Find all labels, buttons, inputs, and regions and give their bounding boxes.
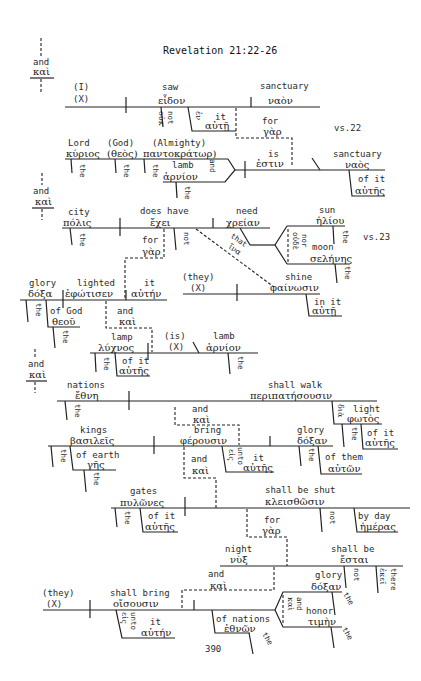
svg-text:πόλις: πόλις [63, 217, 92, 228]
svg-text:moon: moon [312, 242, 334, 252]
clause-glory-lighted: glory δόξα lighted ἐφώτισεν it αὐτήν the… [20, 278, 167, 352]
sentence-diagram: Revelation 21:22-26 and καὶ (I) (X) saw … [0, 0, 421, 681]
svg-text:ἀρνίον: ἀρνίον [163, 171, 198, 182]
svg-text:εἶδον: εἶδον [158, 94, 185, 106]
clause-lamp-is-lamb: lamp λύχνος (is) (X) lamb ἀρνίον the of … [90, 331, 258, 376]
svg-text:of it: of it [148, 511, 175, 521]
svg-text:shall walk: shall walk [268, 380, 323, 390]
page-title: Revelation 21:22-26 [163, 45, 277, 56]
svg-text:the: the [59, 449, 68, 463]
svg-text:the: the [341, 591, 356, 608]
svg-text:for: for [262, 116, 279, 126]
svg-text:οὐκ: οὐκ [157, 111, 166, 126]
svg-text:(they): (they) [182, 272, 215, 282]
svg-text:glory: glory [315, 570, 343, 580]
svg-text:it: it [150, 617, 161, 627]
svg-text:shall be shut: shall be shut [265, 485, 335, 495]
svg-text:ἐστιν: ἐστιν [256, 158, 284, 169]
svg-text:θεοῦ: θεοῦ [52, 316, 75, 327]
svg-text:shall be: shall be [331, 544, 374, 554]
svg-text:αὐτῇ: αὐτῇ [312, 305, 336, 317]
svg-text:(Almighty): (Almighty) [152, 138, 206, 148]
svg-text:καὶ: καὶ [193, 414, 210, 425]
svg-text:καὶ: καὶ [119, 316, 136, 327]
svg-text:the: the [236, 356, 245, 370]
conjunction-middle: and καὶ [32, 173, 54, 220]
svg-text:and: and [28, 359, 44, 369]
svg-text:the: the [78, 233, 87, 247]
svg-text:not: not [328, 511, 337, 525]
svg-text:nor: nor [300, 234, 309, 248]
verse-label-23: vs.23 [363, 232, 390, 242]
svg-text:διὰ: διὰ [336, 404, 345, 418]
svg-text:the: the [260, 631, 275, 648]
svg-text:δόξαν: δόξαν [297, 435, 327, 446]
svg-text:ἔχει: ἔχει [150, 217, 171, 228]
svg-text:not: not [182, 232, 191, 246]
svg-text:and: and [295, 597, 304, 611]
svg-text:by day: by day [358, 511, 391, 521]
svg-text:bring: bring [194, 425, 221, 435]
svg-text:gates: gates [130, 486, 157, 496]
svg-text:of it: of it [358, 174, 385, 184]
svg-text:for: for [264, 515, 281, 525]
svg-text:καὶ: καὶ [29, 369, 46, 380]
svg-text:not: not [352, 568, 361, 582]
svg-text:παντοκράτωρ): παντοκράτωρ) [143, 148, 216, 159]
svg-text:of them: of them [325, 452, 363, 462]
clause-they-shall-bring: (they) (X) shall bring οἴσουσιν εἰς unto… [42, 570, 356, 654]
svg-text:αὐτῆς: αὐτῆς [365, 437, 395, 448]
svg-text:αὐτῆς: αὐτῆς [119, 365, 149, 376]
svg-text:sun: sun [319, 205, 335, 215]
svg-text:there: there [389, 568, 398, 591]
svg-text:Lord: Lord [68, 138, 90, 148]
svg-text:(is): (is) [164, 331, 186, 341]
svg-text:and: and [208, 569, 224, 579]
svg-text:ναὸν: ναὸν [268, 95, 293, 106]
svg-text:lamp: lamp [111, 332, 133, 342]
svg-text:does have: does have [140, 206, 189, 216]
svg-text:and: and [192, 404, 208, 414]
svg-text:νὺξ: νὺξ [230, 554, 248, 565]
svg-text:οἴσουσιν: οἴσουσιν [113, 598, 159, 609]
svg-text:need: need [236, 206, 258, 216]
svg-text:the: the [183, 186, 192, 200]
svg-text:γὰρ: γὰρ [142, 246, 161, 257]
svg-text:for: for [142, 235, 159, 245]
svg-text:ναὸς: ναὸς [345, 159, 370, 170]
svg-text:(X): (X) [190, 283, 206, 293]
svg-text:the: the [102, 357, 111, 371]
svg-text:ἡλίου: ἡλίου [316, 215, 344, 226]
svg-text:night: night [225, 544, 252, 554]
svg-text:κλεισθῶσιν: κλεισθῶσιν [265, 496, 325, 507]
svg-text:αὐτῇ: αὐτῇ [205, 120, 229, 132]
svg-text:ἐφώτισεν: ἐφώτισεν [65, 288, 113, 299]
svg-text:lamb: lamb [213, 331, 235, 341]
svg-text:the: the [92, 472, 101, 486]
svg-text:(X): (X) [73, 94, 89, 104]
svg-text:the: the [350, 427, 359, 441]
verse-label-22: vs.22 [334, 123, 361, 133]
svg-text:αὐτῶν: αὐτῶν [328, 463, 361, 474]
svg-text:γὰρ: γὰρ [263, 126, 282, 137]
svg-text:and: and [117, 306, 133, 316]
svg-text:περιπατήσουσιν: περιπατήσουσιν [250, 390, 332, 401]
svg-text:αὐτήν: αὐτήν [141, 627, 171, 638]
svg-text:it: it [144, 278, 155, 288]
svg-text:ἡμέρας: ἡμέρας [360, 521, 396, 532]
svg-text:οὐδὲ: οὐδὲ [291, 232, 300, 250]
svg-text:εἰς: εἰς [227, 449, 236, 461]
conjunction-top: and καὶ [30, 38, 54, 93]
svg-text:(X): (X) [46, 599, 62, 609]
svg-text:φωτὸς: φωτὸς [347, 413, 380, 424]
svg-text:αὐτῆς: αὐτῆς [355, 185, 385, 196]
svg-text:the: the [78, 164, 87, 178]
svg-text:the: the [61, 330, 70, 344]
svg-text:(θεὸς): (θεὸς) [107, 148, 138, 159]
svg-text:καὶ: καὶ [33, 66, 50, 77]
svg-text:the: the [341, 230, 350, 244]
svg-text:glory: glory [297, 425, 325, 435]
svg-text:ἔθνη: ἔθνη [75, 390, 98, 401]
svg-text:βασιλεῖς: βασιλεῖς [70, 435, 115, 446]
svg-text:the: the [123, 511, 132, 525]
